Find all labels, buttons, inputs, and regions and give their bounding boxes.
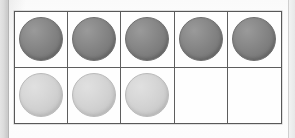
counter-dark-3[interactable] (125, 17, 169, 61)
counter-light-1[interactable] (19, 73, 63, 117)
counter-dark-4[interactable] (179, 17, 223, 61)
counter-dark-2[interactable] (72, 17, 116, 61)
ten-frame-grid (14, 11, 282, 124)
page-right-edge-band (289, 0, 295, 138)
ten-frame-cell-2[interactable] (68, 12, 121, 68)
counter-light-2[interactable] (72, 73, 116, 117)
scanned-worksheet-page (0, 0, 295, 138)
ten-frame-cell-7[interactable] (68, 68, 121, 124)
ten-frame-cell-10[interactable] (228, 68, 281, 124)
ten-frame-cell-1[interactable] (15, 12, 68, 68)
ten-frame-cell-8[interactable] (121, 68, 174, 124)
ten-frame-cell-4[interactable] (175, 12, 228, 68)
ten-frame-cell-3[interactable] (121, 12, 174, 68)
ten-frame-cell-6[interactable] (15, 68, 68, 124)
counter-dark-1[interactable] (19, 17, 63, 61)
counter-light-3[interactable] (125, 73, 169, 117)
ten-frame-cell-9[interactable] (175, 68, 228, 124)
ten-frame-cell-5[interactable] (228, 12, 281, 68)
page-left-edge-line (8, 0, 9, 138)
counter-dark-5[interactable] (232, 17, 276, 61)
